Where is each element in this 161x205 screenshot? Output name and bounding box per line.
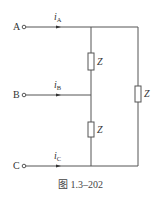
arrow-b-icon xyxy=(56,94,61,97)
impedance-label-lower: Z xyxy=(97,125,103,135)
arrow-a-icon xyxy=(56,26,61,29)
terminal-a xyxy=(22,25,26,29)
current-label-c: iC xyxy=(54,151,61,163)
terminal-label-c: C xyxy=(13,161,20,171)
arrow-c-icon xyxy=(56,165,61,168)
impedance-right xyxy=(135,86,141,102)
terminal-c xyxy=(22,164,26,168)
figure-caption: 图 1.3–202 xyxy=(0,176,161,191)
impedance-upper xyxy=(88,53,94,70)
impedance-label-upper: Z xyxy=(97,57,103,67)
terminal-label-a: A xyxy=(13,22,20,32)
circuit-diagram xyxy=(0,0,161,205)
impedance-label-right: Z xyxy=(144,89,150,99)
current-label-b: iB xyxy=(54,80,61,92)
terminal-label-b: B xyxy=(13,90,20,100)
terminal-b xyxy=(22,93,26,97)
current-label-a: iA xyxy=(54,12,61,24)
impedance-lower xyxy=(88,122,94,137)
